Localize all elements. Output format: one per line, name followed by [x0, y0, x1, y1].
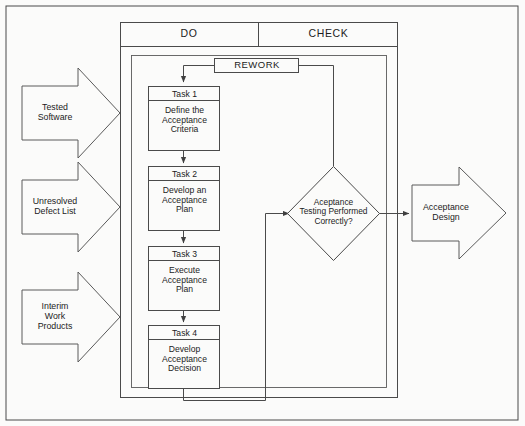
task-3-box	[149, 247, 220, 311]
diagram-canvas: DO CHECK REWORK Task 1 Define the Accept…	[0, 0, 525, 426]
rework-to-task1-connector	[184, 66, 215, 83]
flowchart-graphics	[0, 0, 525, 426]
task-4-box	[149, 326, 220, 389]
rework-box	[215, 59, 299, 73]
output-arrow-acceptance-design	[412, 167, 506, 259]
task-2-box	[149, 167, 220, 231]
input-arrow-tested-software	[22, 68, 120, 158]
input-arrow-unresolved-defect-list	[22, 162, 120, 252]
input-arrow-interim-work-products	[22, 272, 120, 362]
decision-diamond	[288, 167, 380, 261]
task-1-box	[149, 87, 220, 151]
rework-right-connector	[299, 66, 334, 167]
